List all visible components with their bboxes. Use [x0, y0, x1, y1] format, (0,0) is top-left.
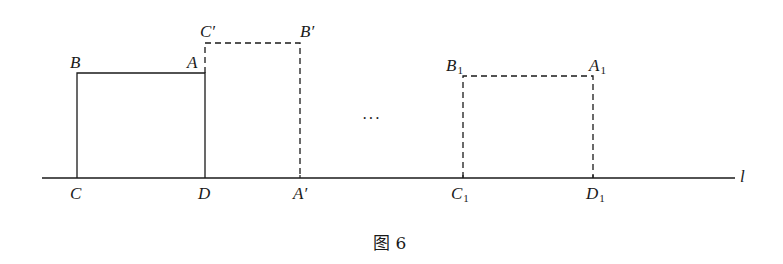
label-C-prime: C′: [200, 23, 215, 40]
label-A1: A1: [589, 57, 606, 76]
label-D1-sub: 1: [599, 192, 605, 204]
label-C-prime-mark: ′: [211, 22, 215, 41]
label-B-text: B: [70, 53, 80, 72]
label-B-prime-mark: ′: [310, 22, 314, 41]
label-A-text: A: [187, 53, 197, 72]
label-C1-base: C: [451, 184, 462, 203]
label-A1-base: A: [589, 56, 599, 75]
figure-caption: 图 6: [373, 229, 406, 254]
label-D: D: [198, 185, 210, 202]
ellipsis: ···: [362, 110, 381, 128]
label-l: l: [740, 168, 745, 185]
label-l-text: l: [740, 167, 745, 186]
label-C: C: [70, 185, 81, 202]
label-D-text: D: [198, 184, 210, 203]
label-B1-base: B: [446, 56, 456, 75]
label-A: A: [187, 54, 197, 71]
rect-B1A1D1C1: [463, 76, 593, 178]
label-C1: C1: [451, 185, 469, 204]
label-C-prime-base: C: [200, 22, 211, 41]
rect-CprimeBprimeAprimeD: [205, 43, 300, 178]
label-C1-sub: 1: [463, 192, 469, 204]
label-B-prime: B′: [300, 23, 314, 40]
rect-ABCD: [77, 73, 205, 178]
label-A-prime-base: A: [293, 184, 303, 203]
label-A-prime: A′: [293, 185, 307, 202]
label-A-prime-mark: ′: [303, 184, 307, 203]
label-B-prime-base: B: [300, 22, 310, 41]
label-D1: D1: [586, 185, 605, 204]
label-C-text: C: [70, 184, 81, 203]
label-B1-sub: 1: [457, 64, 463, 76]
label-B: B: [70, 54, 80, 71]
label-B1: B1: [446, 57, 463, 76]
label-D1-base: D: [586, 184, 598, 203]
diagram-canvas: [0, 0, 783, 264]
rolling-rectangle-diagram: B A C D C′ B′ A′ B1 A1 C1 D1 l ··· 图 6: [0, 0, 783, 264]
label-A1-sub: 1: [600, 64, 606, 76]
